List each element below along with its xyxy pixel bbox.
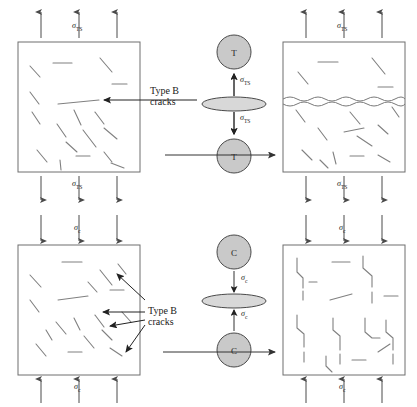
specimen-box: [283, 245, 405, 375]
disc-stress-label-tension-upper: σTS: [240, 76, 250, 86]
vertical-stepped-cracks: [297, 256, 398, 372]
microcracks: [30, 58, 127, 170]
disc-specimen: [202, 97, 266, 111]
platen-label-bottom: T: [231, 152, 237, 162]
platen-label-top: C: [231, 248, 237, 258]
assembly-compression-disc: C C: [202, 235, 266, 367]
platen-label-bottom: C: [231, 346, 237, 356]
panel-compressive-before: [18, 215, 140, 403]
fracture-mechanics-figure: T T C C σTS σTS σTS σTS σc σc: [0, 0, 417, 407]
stress-label-bottom-right-lower: σc: [339, 383, 345, 393]
microcracks: [30, 262, 131, 356]
stress-label-bottom-left-upper: σc: [74, 224, 80, 234]
specimen-box: [283, 42, 405, 172]
disc-stress-label-compression-lower: σc: [241, 310, 247, 320]
stress-label-top-right-upper: σTS: [337, 22, 347, 32]
panel-tensile-after: [283, 12, 405, 200]
stress-label-top-right-lower: σTS: [337, 180, 347, 190]
callout-label-top: Type B cracks: [150, 86, 179, 108]
stress-label-top-left-upper: σTS: [72, 22, 82, 32]
callout-leaders-bottom: [103, 274, 145, 352]
disc-specimen: [202, 294, 266, 308]
callout-top-line2: cracks: [150, 97, 179, 108]
specimen-box: [18, 42, 140, 172]
horizontal-wavy-fracture: [283, 97, 405, 106]
microcracks: [296, 58, 399, 168]
assembly-tension-disc: T T: [202, 35, 266, 173]
callout-label-bottom: Type B cracks: [148, 306, 177, 328]
platen-label-top: T: [231, 48, 237, 58]
disc-stress-label-compression-upper: σc: [241, 274, 247, 284]
stress-label-bottom-left-lower: σc: [74, 383, 80, 393]
figure-canvas: T T C C: [0, 0, 417, 407]
panel-tensile-before: [18, 12, 140, 200]
stress-label-top-left-lower: σTS: [72, 180, 82, 190]
callout-bottom-line2: cracks: [148, 317, 177, 328]
disc-stress-label-tension-lower: σTS: [240, 114, 250, 124]
panel-compressive-after: [283, 215, 405, 403]
stress-label-bottom-right-upper: σc: [339, 224, 345, 234]
